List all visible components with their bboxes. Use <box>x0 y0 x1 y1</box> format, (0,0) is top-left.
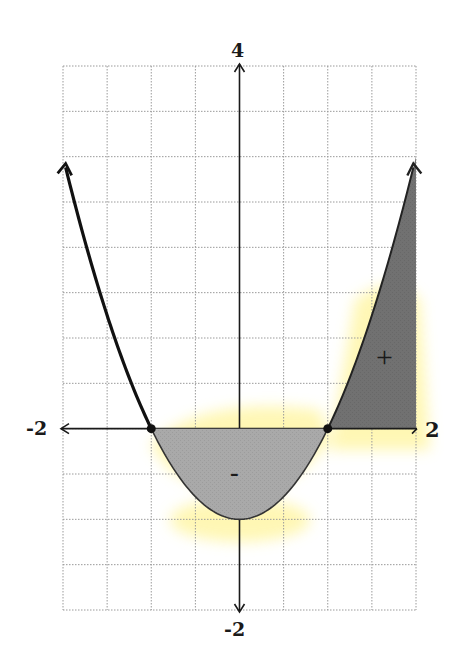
y-max-label: 4 <box>231 41 244 60</box>
root-point <box>147 424 156 433</box>
negative-sign: - <box>230 460 239 486</box>
curve-left-branch <box>66 167 152 428</box>
positive-sign: + <box>376 342 393 372</box>
y-min-label: -2 <box>224 620 245 639</box>
x-min-label: -2 <box>26 419 47 438</box>
graph-canvas <box>0 0 461 663</box>
x-max-label: 2 <box>425 419 440 440</box>
root-point <box>323 424 332 433</box>
